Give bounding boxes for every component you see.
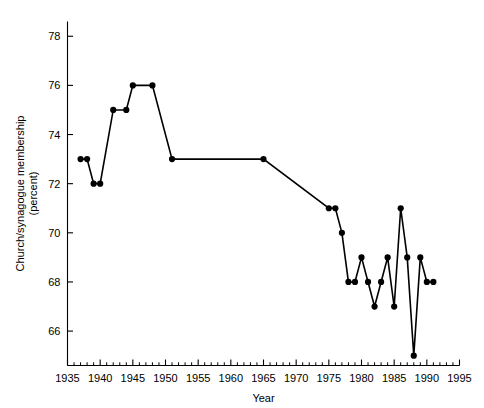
y-tick-label-72: 72: [48, 178, 60, 190]
data-point-1979: [352, 279, 358, 285]
x-tick-label-1970: 1970: [284, 372, 308, 384]
x-tick-label-1945: 1945: [121, 372, 145, 384]
data-point-1937: [77, 156, 83, 162]
data-point-1976: [332, 205, 338, 211]
y-axis: 66687072747678: [48, 22, 73, 366]
data-point-1983: [378, 279, 384, 285]
data-point-1951: [169, 156, 175, 162]
data-point-1982: [371, 303, 377, 309]
data-point-1984: [385, 254, 391, 260]
x-tick-label-1935: 1935: [55, 372, 79, 384]
x-tick-label-1995: 1995: [447, 372, 471, 384]
data-point-1939: [91, 181, 97, 187]
x-tick-label-1950: 1950: [153, 372, 177, 384]
data-point-1940: [97, 181, 103, 187]
data-point-1942: [110, 107, 116, 113]
data-point-1948: [149, 82, 155, 88]
y-tick-label-68: 68: [48, 276, 60, 288]
x-tick-label-1940: 1940: [88, 372, 112, 384]
chart-container: 66687072747678 1935194019451950195519601…: [0, 0, 484, 408]
data-point-1986: [398, 205, 404, 211]
line-chart: 66687072747678 1935194019451950195519601…: [0, 0, 484, 408]
data-point-1977: [339, 230, 345, 236]
data-point-1990: [424, 279, 430, 285]
x-tick-label-1955: 1955: [186, 372, 210, 384]
x-tick-label-1990: 1990: [415, 372, 439, 384]
data-point-1985: [391, 303, 397, 309]
series-line-0: [81, 85, 434, 355]
data-point-1975: [326, 205, 332, 211]
x-axis-title: Year: [252, 392, 275, 404]
data-point-1988: [411, 353, 417, 359]
x-axis: 1935194019451950195519601965197019751980…: [55, 360, 471, 384]
data-point-1938: [84, 156, 90, 162]
data-point-1944: [123, 107, 129, 113]
y-tick-label-70: 70: [48, 227, 60, 239]
data-point-1987: [404, 254, 410, 260]
data-point-1978: [345, 279, 351, 285]
x-tick-label-1980: 1980: [349, 372, 373, 384]
data-point-1989: [417, 254, 423, 260]
x-tick-label-1960: 1960: [219, 372, 243, 384]
data-point-1991: [430, 279, 436, 285]
x-tick-label-1965: 1965: [251, 372, 275, 384]
y-tick-label-76: 76: [48, 79, 60, 91]
y-axis-title-line-2: (percent): [27, 171, 39, 215]
data-point-1981: [365, 279, 371, 285]
y-tick-label-78: 78: [48, 30, 60, 42]
data-point-1965: [260, 156, 266, 162]
y-axis-title-line-1: Church/synagogue membership: [14, 116, 26, 272]
y-tick-label-74: 74: [48, 129, 60, 141]
x-tick-label-1985: 1985: [382, 372, 406, 384]
x-tick-label-1975: 1975: [317, 372, 341, 384]
data-series: [77, 82, 436, 358]
y-tick-label-66: 66: [48, 325, 60, 337]
data-point-1945: [130, 82, 136, 88]
data-point-1980: [358, 254, 364, 260]
